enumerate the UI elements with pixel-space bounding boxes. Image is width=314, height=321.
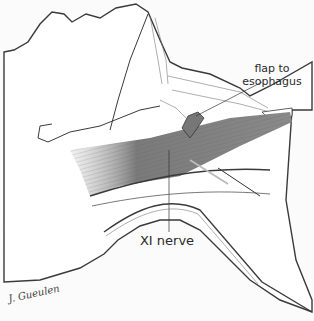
xi-nerve-label: XI nerve [132,234,202,247]
flap-label-line1: flap to [232,62,312,75]
flap-to-esophagus-label: flap to esophagus [232,62,312,88]
flap-label-line2: esophagus [232,75,312,88]
illustration-canvas: flap to esophagus XI nerve J. Gueulen [0,0,314,321]
anatomy-drawing [0,0,314,321]
